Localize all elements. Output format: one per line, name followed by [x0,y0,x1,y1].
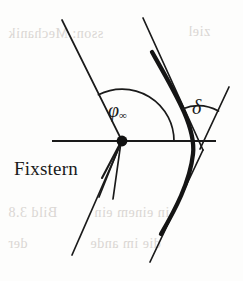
delta-angle-ray-line [200,87,229,149]
figure-container: sson: Mechanik ziel Bild 3.8 in einem ei… [0,0,243,281]
fixstern-label: Fixstern [14,158,78,180]
diagram-canvas [0,0,243,281]
orbit-trajectory-curve [152,52,193,234]
asymptote-upper-left-line [62,20,122,141]
fixstern-point-marker [117,136,128,147]
delta-label: δ [192,96,201,119]
phi-subscript-infinity: ∞ [119,109,126,121]
phi-symbol: φ [108,99,119,121]
phi-infinity-label: φ∞ [108,99,126,122]
